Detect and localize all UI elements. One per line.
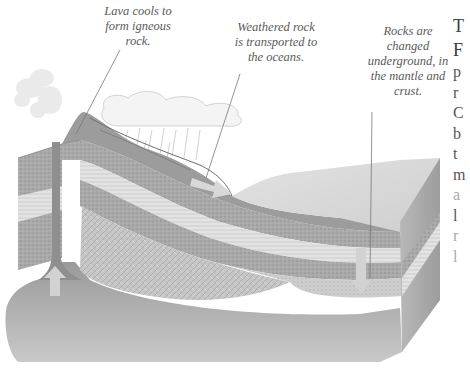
- label-line: the oceans.: [230, 50, 322, 65]
- label-rocks-changed: Rocks are changed underground, in the ma…: [362, 24, 454, 99]
- volcano-smoke: [14, 69, 62, 118]
- body-line: l: [453, 206, 470, 227]
- label-line: Weathered rock: [230, 20, 322, 35]
- heading-line: T: [453, 14, 470, 38]
- body-line: p: [453, 62, 470, 83]
- body-line: l: [453, 247, 470, 268]
- body-line: t: [453, 144, 470, 165]
- cropped-side-text: T F p r C b t m a l r l: [453, 14, 470, 267]
- body-line: b: [453, 124, 470, 145]
- body-line: a: [453, 185, 470, 206]
- label-line: underground, in: [362, 54, 454, 69]
- body-line: m: [453, 165, 470, 186]
- label-line: Lava cools to: [92, 4, 184, 19]
- label-lava-cools: Lava cools to form igneous rock.: [92, 4, 184, 49]
- body-line: C: [453, 103, 470, 124]
- label-line: crust.: [362, 84, 454, 99]
- label-line: changed: [362, 39, 454, 54]
- cloud: [102, 91, 242, 126]
- label-line: rock.: [92, 34, 184, 49]
- body-line: r: [453, 83, 470, 104]
- label-line: form igneous: [92, 19, 184, 34]
- heading-line: F: [453, 38, 470, 62]
- label-line: Rocks are: [362, 24, 454, 39]
- label-weathered-rock: Weathered rock is transported to the oce…: [230, 20, 322, 65]
- label-line: is transported to: [230, 35, 322, 50]
- label-line: the mantle and: [362, 69, 454, 84]
- body-line: r: [453, 226, 470, 247]
